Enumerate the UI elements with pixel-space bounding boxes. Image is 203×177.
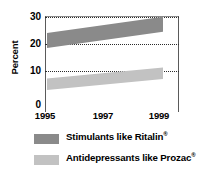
plot-area [45,16,179,106]
legend-label-stimulants-text: Stimulants like Ritalin [66,131,163,142]
legend-label-antidepressants-text: Antidepressants like Prozac [66,152,191,163]
legend-swatch-antidepressants [34,155,59,165]
y-tick-label-10: 10 [17,66,41,76]
series-band-antidepressants [47,68,163,90]
y-tick-label-0: 0 [17,100,41,110]
chart-legend: Stimulants like Ritalin® Antidepressants… [0,130,203,172]
series-bands [45,16,179,106]
y-tick-label-20: 20 [17,39,41,49]
chart-figure: Percent 30 20 10 0 1995 1997 1999 Stimul… [0,0,203,177]
series-band-stimulants [47,17,163,48]
x-tick-label-1999: 1999 [139,110,179,121]
registered-trademark-icon: ® [191,152,195,158]
legend-item-antidepressants: Antidepressants like Prozac® [0,151,203,172]
registered-trademark-icon: ® [163,131,167,137]
y-tick-label-30: 30 [17,12,41,22]
legend-swatch-stimulants [34,134,59,144]
legend-label-antidepressants: Antidepressants like Prozac® [66,152,195,163]
legend-label-stimulants: Stimulants like Ritalin® [66,131,168,142]
x-tick-label-1995: 1995 [25,110,65,121]
x-tick-label-1997: 1997 [83,110,123,121]
legend-item-stimulants: Stimulants like Ritalin® [0,130,203,151]
